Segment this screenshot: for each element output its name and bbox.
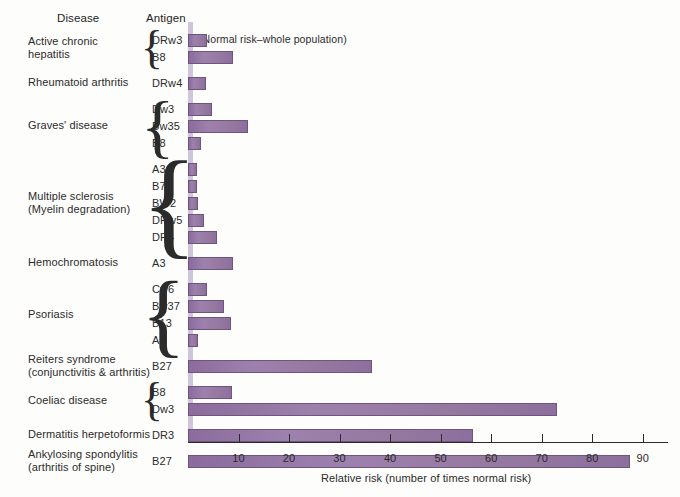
bar-b8: [188, 386, 232, 399]
x-tick: [592, 434, 593, 442]
bar-b13: [188, 317, 231, 330]
antigen-label: Bw35: [152, 120, 180, 133]
bar-bw2: [188, 197, 198, 210]
x-tick-label: 40: [375, 452, 405, 465]
bar-drw3: [188, 34, 207, 47]
disease-label: Dermatitis herpetoformis: [28, 428, 150, 441]
antigen-label: B7: [152, 180, 166, 193]
x-tick: [491, 434, 492, 442]
x-tick-label: 60: [476, 452, 506, 465]
x-tick: [239, 434, 240, 442]
antigen-label: DRw5: [152, 214, 182, 227]
bar-dr3: [188, 429, 473, 442]
bar-a3: [188, 257, 233, 270]
bar-drw5: [188, 214, 204, 227]
antigen-label: B8: [152, 386, 166, 399]
x-tick: [340, 434, 341, 442]
disease-label: Hemochromatosis: [28, 256, 118, 269]
disease-label: Reiters syndrome: [28, 353, 116, 366]
x-tick-label: 10: [224, 452, 254, 465]
x-tick: [441, 434, 442, 442]
antigen-label: A1: [152, 334, 166, 347]
antigen-label: DR3: [152, 429, 174, 442]
x-tick-label: 50: [426, 452, 456, 465]
x-axis-line: [188, 442, 668, 443]
x-tick: [289, 434, 290, 442]
disease-label: Ankylosing spondylitis: [28, 448, 138, 461]
x-tick-label: 30: [325, 452, 355, 465]
x-tick: [643, 434, 644, 442]
antigen-label: Bw37: [152, 300, 180, 313]
bar-dw3: [188, 403, 557, 416]
disease-label: Coeliac disease: [28, 394, 107, 407]
bar-bw37: [188, 300, 224, 313]
disease-label: (Myelin degradation): [28, 203, 130, 216]
disease-label: Psoriasis: [28, 308, 74, 321]
disease-label: (arthritis of spine): [28, 461, 115, 474]
bar-bw35: [188, 120, 248, 133]
bar-b27: [188, 360, 372, 373]
bar-b8: [188, 137, 201, 150]
bar-dw3: [188, 103, 212, 116]
bar-a1: [188, 334, 198, 347]
antigen-column-header: Antigen: [146, 12, 186, 25]
x-tick-label: 80: [577, 452, 607, 465]
bar-b8: [188, 51, 233, 64]
bar-drw4: [188, 77, 206, 90]
antigen-label: Dw3: [152, 403, 174, 416]
antigen-label: BW2: [152, 197, 176, 210]
disease-label: Rheumatoid arthritis: [28, 76, 128, 89]
plot-area: [188, 22, 668, 442]
x-tick-label: 20: [274, 452, 304, 465]
bar-b27: [188, 455, 630, 468]
x-tick-label: 70: [527, 452, 557, 465]
disease-label: Active chronic: [28, 35, 98, 48]
x-tick: [390, 434, 391, 442]
x-tick-label: 90: [628, 452, 658, 465]
antigen-label: B8: [152, 51, 166, 64]
disease-label: Multiple sclerosis: [28, 190, 114, 203]
disease-column-header: Disease: [57, 12, 99, 25]
x-tick: [542, 434, 543, 442]
antigen-label: B8: [152, 137, 166, 150]
disease-label: Graves' disease: [28, 119, 108, 132]
antigen-label: B27: [152, 360, 172, 373]
antigen-label: B13: [152, 317, 172, 330]
antigen-label: B27: [152, 455, 172, 468]
antigen-label: DR4: [152, 231, 174, 244]
antigen-label: DRw4: [152, 77, 182, 90]
antigen-label: DRw3: [152, 34, 182, 47]
chart-page: Disease Antigen (Normal risk–whole popul…: [0, 0, 680, 497]
disease-label: hepatitis: [28, 48, 70, 61]
bar-dr4: [188, 231, 217, 244]
antigen-label: Dw3: [152, 103, 174, 116]
antigen-label: A3: [152, 257, 166, 270]
x-axis-title: Relative risk (number of times normal ri…: [321, 472, 531, 485]
antigen-label: A3: [152, 163, 166, 176]
antigen-label: Cw6: [152, 283, 174, 296]
disease-label: (conjunctivitis & arthritis): [28, 366, 150, 379]
bar-a3: [188, 163, 197, 176]
bar-cw6: [188, 283, 207, 296]
bar-b7: [188, 180, 197, 193]
